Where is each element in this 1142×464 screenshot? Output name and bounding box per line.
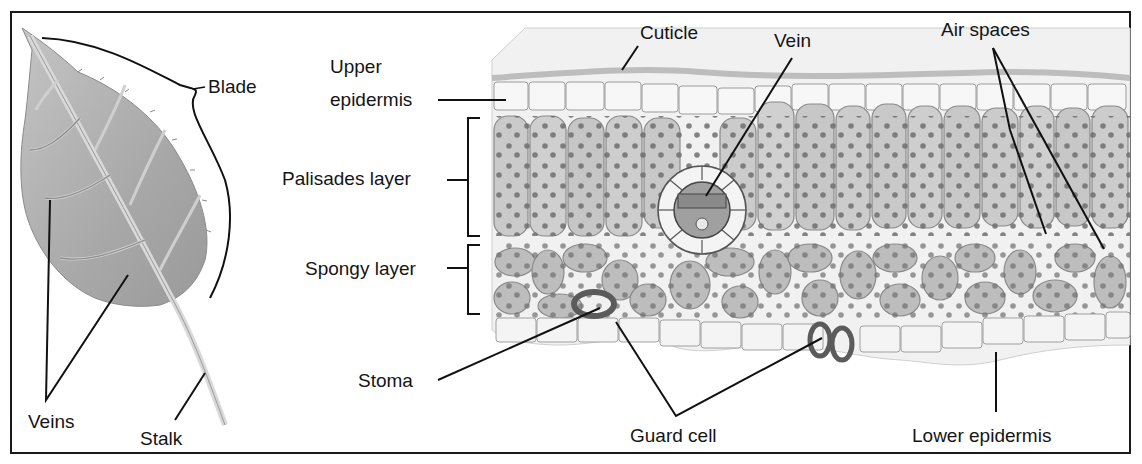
label-vein: Vein	[774, 30, 811, 52]
label-lower-epidermis: Lower epidermis	[912, 425, 1051, 447]
label-air-spaces: Air spaces	[941, 19, 1030, 41]
stalk-leader	[175, 373, 205, 420]
label-spongy-layer: Spongy layer	[305, 258, 416, 280]
leaf-illustration	[21, 28, 225, 425]
label-stoma: Stoma	[358, 370, 413, 392]
vein-bundle	[658, 166, 746, 254]
label-blade: Blade	[208, 76, 257, 98]
label-stalk: Stalk	[140, 428, 182, 450]
label-upper-epidermis-line1: Upper	[330, 56, 382, 78]
label-cuticle: Cuticle	[640, 22, 698, 44]
spongy-bracket	[468, 245, 480, 314]
label-palisades-layer: Palisades layer	[282, 168, 411, 190]
palisades-bracket	[468, 118, 480, 236]
label-guard-cell: Guard cell	[630, 425, 717, 447]
label-upper-epidermis-line2: epidermis	[330, 89, 412, 111]
label-veins: Veins	[28, 411, 74, 433]
leaf-diagram-art	[0, 0, 1142, 464]
